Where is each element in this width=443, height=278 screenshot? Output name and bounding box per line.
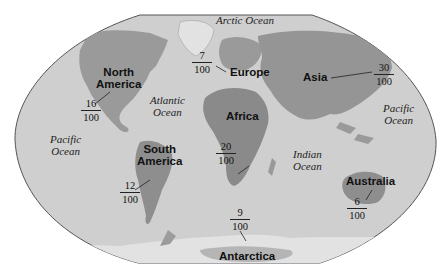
australia-numerator: 6 [347, 196, 367, 209]
south-america-denominator: 100 [118, 193, 142, 205]
australia-fraction: 6 100 [345, 196, 369, 221]
europe-denominator: 100 [190, 63, 214, 75]
atlantic-ocean-line2: Ocean [150, 106, 185, 118]
indian-ocean-line2: Ocean [293, 160, 322, 172]
south-america-numerator: 12 [120, 180, 140, 193]
asia-fraction: 30 100 [372, 62, 396, 87]
asia-denominator: 100 [372, 75, 396, 87]
pacific-ocean-east-line2: Ocean [383, 114, 414, 126]
north-america-label: North America [96, 66, 141, 90]
antarctica-denominator: 100 [228, 220, 252, 232]
indian-ocean-line1: Indian [293, 148, 322, 160]
south-america-line1: South [137, 143, 182, 155]
north-america-line2: America [96, 78, 141, 90]
pacific-ocean-west-line1: Pacific [50, 133, 81, 145]
north-america-numerator: 16 [81, 98, 101, 111]
africa-label: Africa [226, 110, 259, 122]
atlantic-ocean-line1: Atlantic [150, 94, 185, 106]
africa-fraction: 20 100 [214, 141, 238, 166]
australia-denominator: 100 [345, 209, 369, 221]
europe-name: Europe [230, 66, 270, 78]
arctic-ocean-label: Arctic Ocean [216, 14, 274, 26]
australia-name: Australia [346, 175, 395, 187]
antarctica-numerator: 9 [230, 207, 250, 220]
africa-numerator: 20 [216, 141, 236, 154]
south-america-fraction: 12 100 [118, 180, 142, 205]
europe-label: Europe [230, 66, 270, 78]
antarctica-label: Antarctica [219, 250, 275, 262]
pacific-ocean-west-line2: Ocean [50, 145, 81, 157]
north-america-line1: North [96, 66, 141, 78]
antarctica-fraction: 9 100 [228, 207, 252, 232]
pacific-ocean-east-line1: Pacific [383, 102, 414, 114]
africa-denominator: 100 [214, 154, 238, 166]
arctic-ocean-name: Arctic Ocean [216, 14, 274, 26]
europe-fraction: 7 100 [190, 50, 214, 75]
indian-ocean-label: Indian Ocean [293, 148, 322, 172]
south-america-line2: America [137, 155, 182, 167]
north-america-denominator: 100 [79, 111, 103, 123]
north-america-fraction: 16 100 [79, 98, 103, 123]
south-america-label: South America [137, 143, 182, 167]
asia-numerator: 30 [374, 62, 394, 75]
australia-label: Australia [346, 175, 395, 187]
europe-numerator: 7 [192, 50, 212, 63]
atlantic-ocean-label: Atlantic Ocean [150, 94, 185, 118]
africa-name: Africa [226, 110, 259, 122]
pacific-ocean-east-label: Pacific Ocean [383, 102, 414, 126]
antarctica-name: Antarctica [219, 250, 275, 262]
asia-name: Asia [303, 71, 327, 83]
asia-label: Asia [303, 71, 327, 83]
pacific-ocean-west-label: Pacific Ocean [50, 133, 81, 157]
